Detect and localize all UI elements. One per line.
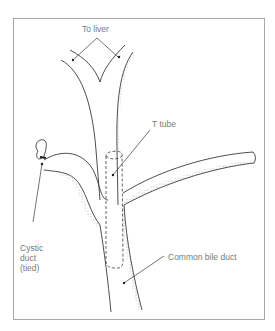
to-liver-pointer [73, 38, 118, 60]
tie-icon [40, 157, 46, 158]
cystic-duct [44, 153, 108, 225]
pointer-dot [41, 163, 43, 165]
cystic-pointer [33, 164, 42, 222]
label-common-bile-duct: Common bile duct [168, 252, 237, 262]
label-cystic-line-3: (tied) [20, 263, 43, 273]
duct-shading [117, 52, 135, 150]
bile-duct-illustration [0, 0, 275, 331]
label-cystic-line-2: duct [20, 253, 43, 263]
t-tube-top [106, 156, 122, 159]
label-cystic-line-1: Cystic [20, 243, 43, 253]
label-cystic-duct: Cystic duct (tied) [20, 243, 43, 273]
pointer-dot [123, 282, 125, 284]
ligature-knot-icon [36, 140, 46, 159]
pointer-dot [112, 174, 114, 176]
t-tube-shading [124, 160, 254, 205]
t-tube-limb [123, 152, 255, 205]
cbd-shading [121, 205, 142, 310]
label-t-tube: T tube [152, 119, 176, 129]
pointer-dot [72, 59, 74, 61]
cystic-shading [58, 172, 100, 228]
pointer-dot [118, 56, 120, 58]
label-to-liver: To liver [82, 24, 109, 34]
t-tube-intraductal [106, 151, 123, 268]
